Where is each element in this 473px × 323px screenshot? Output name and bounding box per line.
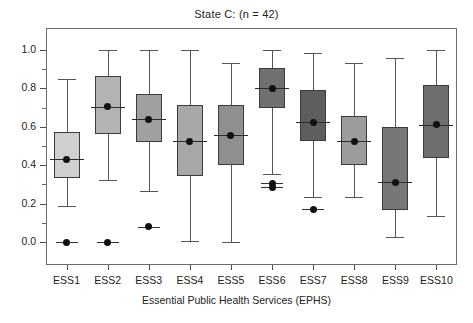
cap-lower (427, 216, 445, 217)
x-tick-label-ess6: ESS6 (259, 274, 286, 286)
x-tick (231, 265, 232, 270)
x-tick-label-ess8: ESS8 (341, 274, 368, 286)
x-tick-label-ess9: ESS9 (382, 274, 409, 286)
x-tick (354, 265, 355, 270)
whisker-upper (436, 50, 437, 85)
cap-lower (181, 241, 199, 242)
x-tick (67, 265, 68, 270)
x-tick (149, 265, 150, 270)
x-tick (190, 265, 191, 270)
x-tick-label-ess2: ESS2 (94, 274, 121, 286)
x-tick-label-ess4: ESS4 (176, 274, 203, 286)
x-tick (395, 265, 396, 270)
y-tick-major (40, 242, 46, 243)
x-tick (108, 265, 109, 270)
x-tick (436, 265, 437, 270)
cap-lower (386, 237, 404, 238)
boxplot-chart: State C: (n = 42) 0.00.20.40.60.81.0 ESS… (0, 0, 473, 323)
outlier-point (63, 239, 70, 246)
x-axis-title: Essential Public Health Services (EPHS) (0, 294, 473, 306)
x-tick (313, 265, 314, 270)
x-tick-label-ess5: ESS5 (218, 274, 245, 286)
x-tick-label-ess3: ESS3 (135, 274, 162, 286)
cap-lower (222, 242, 240, 243)
outlier-point (104, 239, 111, 246)
whisker-lower (436, 158, 437, 216)
box-ess10 (0, 0, 473, 237)
x-tick-label-ess7: ESS7 (300, 274, 327, 286)
x-tick-label-ess10: ESS10 (420, 274, 453, 286)
x-tick-label-ess1: ESS1 (53, 274, 80, 286)
cap-upper (427, 50, 445, 51)
x-tick (272, 265, 273, 270)
